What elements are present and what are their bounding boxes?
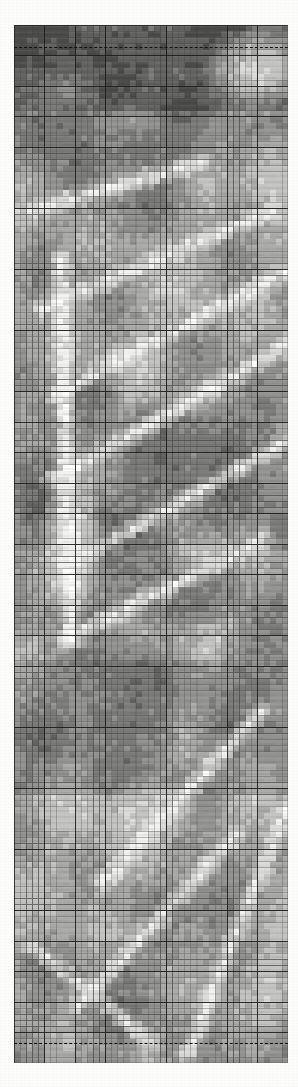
figure-page	[0, 0, 298, 1087]
raster-cells	[14, 25, 288, 1063]
raster-grid-plot[interactable]	[14, 25, 288, 1063]
